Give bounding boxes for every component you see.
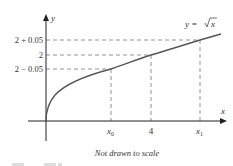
x-tick-x1: x1 <box>195 126 203 137</box>
svg-text:y =: y = <box>184 19 197 29</box>
x-axis-arrow-icon <box>220 118 227 124</box>
sqrt-function-diagram: y x 2 + 0.05 2 2 − 0.05 x0 4 x1 y = x No… <box>0 0 233 166</box>
y-tick-upper: 2 + 0.05 <box>15 35 43 45</box>
axes <box>28 20 222 141</box>
svg-text:x: x <box>210 19 215 29</box>
x-axis-label: x <box>220 106 225 116</box>
vertical-guides <box>111 40 200 121</box>
y-axis-label: y <box>50 13 55 23</box>
function-label: y = x <box>184 18 217 29</box>
y-tick-mid: 2 <box>39 50 43 60</box>
figure-caption: Not drawn to scale <box>94 148 160 158</box>
y-tick-lower: 2 − 0.05 <box>15 64 43 74</box>
x-tick-x0: x0 <box>106 126 114 137</box>
cutoff-caption-fragment <box>12 163 62 166</box>
sqrt-curve <box>46 34 221 121</box>
x-tick-4: 4 <box>149 126 154 136</box>
y-axis-arrow-icon <box>43 14 49 21</box>
